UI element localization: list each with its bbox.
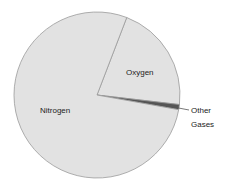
label-oxygen: Oxygen xyxy=(126,68,154,77)
label-other-gases-line2: Gases xyxy=(191,120,214,129)
pie-chart: Nitrogen Oxygen Other Gases xyxy=(0,0,227,194)
label-other-gases-line1: Other xyxy=(191,106,211,115)
pie-slices xyxy=(14,12,180,178)
label-nitrogen: Nitrogen xyxy=(40,106,70,115)
